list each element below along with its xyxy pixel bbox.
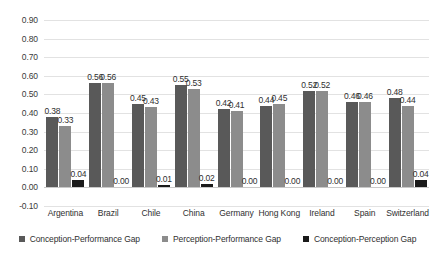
bar-value-label: 0.04	[413, 169, 429, 179]
bar[interactable]	[158, 185, 170, 187]
y-axis-tick-label: 0.90	[0, 15, 38, 25]
gridline	[44, 206, 429, 207]
bar-groups: 0.380.330.040.560.560.000.450.430.010.55…	[44, 20, 429, 206]
bar-group: 0.560.560.00	[87, 20, 130, 206]
bar[interactable]	[201, 184, 213, 188]
bar[interactable]	[260, 106, 272, 188]
bar[interactable]	[316, 91, 328, 188]
bar-group: 0.450.430.01	[130, 20, 173, 206]
bar-group: 0.550.530.02	[172, 20, 215, 206]
bar-value-label: 0.44	[400, 95, 416, 105]
bar-value-label: 0.53	[186, 78, 202, 88]
bar-value-label: 0.46	[357, 91, 373, 101]
bar-group-bars: 0.520.520.00	[301, 20, 344, 187]
y-axis-tick-label: 0.40	[0, 108, 38, 118]
bar-group: 0.420.410.00	[215, 20, 258, 206]
bar[interactable]	[175, 85, 187, 187]
bar-column: 0.00	[329, 20, 341, 187]
bar-group-bars: 0.440.450.00	[258, 20, 301, 187]
bar-column: 0.44	[260, 20, 272, 187]
bar-group: 0.480.440.04	[386, 20, 429, 206]
bar-column: 0.00	[286, 20, 298, 187]
bar-column: 0.46	[359, 20, 371, 187]
bar-value-label: 0.45	[271, 93, 287, 103]
legend-swatch-icon	[303, 236, 309, 242]
bar-group-bars: 0.460.460.00	[343, 20, 386, 187]
bar-column: 0.52	[316, 20, 328, 187]
legend-label: Conception-Performance Gap	[30, 234, 140, 244]
bar-column: 0.00	[244, 20, 256, 187]
y-axis-tick-label: 0.60	[0, 71, 38, 81]
bar-value-label: 0.01	[156, 174, 172, 184]
legend-label: Perception-Performance Gap	[173, 234, 281, 244]
bar-column: 0.46	[346, 20, 358, 187]
bar-column: 0.33	[59, 20, 71, 187]
bar-group-bars: 0.550.530.02	[172, 20, 215, 187]
bar[interactable]	[389, 98, 401, 187]
x-axis-category-label: Brazil	[87, 208, 130, 218]
bar-column: 0.04	[415, 20, 427, 187]
y-axis-tick-label: 0.10	[0, 164, 38, 174]
bar-value-label: 0.00	[370, 176, 386, 186]
bar-column: 0.56	[89, 20, 101, 187]
bar[interactable]	[132, 104, 144, 188]
x-axis-category-label: Ireland	[301, 208, 344, 218]
bar-value-label: 0.04	[71, 169, 87, 179]
bar-column: 0.55	[175, 20, 187, 187]
bar-value-label: 0.00	[113, 176, 129, 186]
bar-column: 0.45	[273, 20, 285, 187]
bar-group-bars: 0.480.440.04	[386, 20, 429, 187]
bar-column: 0.52	[303, 20, 315, 187]
bar-column: 0.56	[102, 20, 114, 187]
bar[interactable]	[415, 180, 427, 187]
x-axis-category-label: Spain	[343, 208, 386, 218]
legend-item[interactable]: Perception-Performance Gap	[162, 234, 281, 244]
bar-column: 0.43	[145, 20, 157, 187]
x-axis-labels: ArgentinaBrazilChileChinaGermanyHong Kon…	[44, 208, 429, 218]
bar-column: 0.53	[188, 20, 200, 187]
bar-group: 0.380.330.04	[44, 20, 87, 206]
bar-value-label: 0.43	[143, 96, 159, 106]
bar-column: 0.38	[46, 20, 58, 187]
y-axis-tick-label: 0.80	[0, 34, 38, 44]
x-axis-category-label: Chile	[130, 208, 173, 218]
legend-item[interactable]: Conception-Performance Gap	[19, 234, 140, 244]
bar-value-label: 0.52	[314, 80, 330, 90]
bar-group-bars: 0.450.430.01	[130, 20, 173, 187]
y-axis-tick-label: 0.50	[0, 89, 38, 99]
x-axis-category-label: Switzerland	[386, 208, 429, 218]
bar-group-bars: 0.420.410.00	[215, 20, 258, 187]
legend-swatch-icon	[19, 236, 25, 242]
bar[interactable]	[46, 117, 58, 188]
bar[interactable]	[218, 109, 230, 187]
bar-value-label: 0.00	[242, 176, 258, 186]
bar-column: 0.00	[372, 20, 384, 187]
bar-value-label: 0.02	[199, 173, 215, 183]
bar-column: 0.01	[158, 20, 170, 187]
bar[interactable]	[359, 102, 371, 188]
y-axis-tick-label: 0.70	[0, 52, 38, 62]
bar-group: 0.460.460.00	[343, 20, 386, 206]
bar[interactable]	[72, 180, 84, 187]
bar-column: 0.44	[402, 20, 414, 187]
bar[interactable]	[303, 91, 315, 188]
bar-value-label: 0.41	[229, 100, 245, 110]
x-axis-category-label: Hong Kong	[258, 208, 301, 218]
bar[interactable]	[102, 83, 114, 187]
bar[interactable]	[89, 83, 101, 187]
y-axis-tick-label: -0.10	[0, 201, 38, 211]
bar-value-label: 0.00	[327, 176, 343, 186]
bar[interactable]	[273, 104, 285, 188]
bar-value-label: 0.33	[58, 115, 74, 125]
bar-group-bars: 0.380.330.04	[44, 20, 87, 187]
bar-column: 0.02	[201, 20, 213, 187]
x-axis-category-label: Germany	[215, 208, 258, 218]
bar-chart: 0.900.800.700.600.500.400.300.200.100.00…	[0, 0, 435, 262]
chart-legend: Conception-Performance GapPerception-Per…	[0, 234, 435, 244]
bar[interactable]	[346, 102, 358, 188]
bar-value-label: 0.00	[284, 176, 300, 186]
legend-item[interactable]: Conception-Perception Gap	[303, 234, 416, 244]
bar-group-bars: 0.560.560.00	[87, 20, 130, 187]
bar-group: 0.520.520.00	[301, 20, 344, 206]
y-axis-tick-label: 0.20	[0, 145, 38, 155]
